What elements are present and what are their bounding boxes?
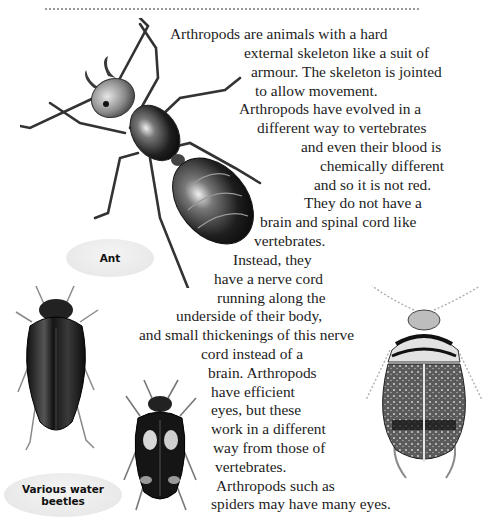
text-line: chemically different (320, 157, 444, 175)
text-line: have efficient (211, 383, 295, 401)
water-beetles-caption: Various water beetles (4, 473, 122, 517)
ant-caption: Ant (66, 239, 154, 277)
text-line: eyes, but these (211, 401, 301, 419)
water-beetles-caption-line2: beetles (41, 495, 85, 507)
text-line: external skeleton like a suit of (244, 44, 429, 62)
text-line: Arthropods such as (216, 477, 335, 495)
spotted-water-beetle-illustration (120, 376, 200, 516)
text-line: brain. Arthropods (208, 364, 317, 382)
text-line: way from those of (213, 439, 325, 457)
text-line: running along the (217, 289, 326, 307)
text-line: spiders may have many eyes. (211, 495, 391, 513)
text-line: to allow movement. (255, 82, 378, 100)
text-line: Arthropods have evolved in a (239, 100, 421, 118)
text-line: and small thickenings of this nerve (139, 326, 354, 344)
text-line: Arthropods are animals with a hard (170, 25, 388, 43)
black-water-beetle-illustration (8, 282, 104, 452)
text-line: and even their blood is (301, 138, 441, 156)
text-line: underside of their body, (176, 307, 322, 325)
text-line: armour. The skeleton is jointed (251, 63, 442, 81)
text-line: work in a different (211, 420, 326, 438)
text-line: and so it is not red. (314, 176, 431, 194)
text-line: different way to vertebrates (257, 119, 426, 137)
text-line: vertebrates. (254, 232, 325, 250)
text-line: have a nerve cord (214, 270, 323, 288)
text-line: vertebrates. (215, 458, 286, 476)
ant-caption-label: Ant (100, 252, 121, 264)
text-line: cord instead of a (201, 345, 303, 363)
text-line: They do not have a (304, 194, 422, 212)
text-line: brain and spinal cord like (260, 213, 416, 231)
water-beetles-caption-line1: Various water (22, 483, 104, 495)
striped-water-beetle-illustration (362, 280, 487, 480)
dotted-divider (45, 8, 419, 10)
text-line: Instead, they (233, 251, 312, 269)
